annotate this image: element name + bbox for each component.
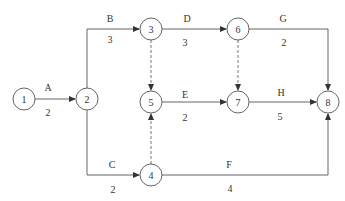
node-4: 4: [140, 164, 162, 186]
activity-B-name: B: [107, 13, 114, 24]
activity-C-name: C: [109, 159, 116, 170]
activity-H-duration: 5: [278, 111, 283, 122]
activity-E-name: E: [182, 89, 188, 100]
activity-H-name: H: [277, 87, 284, 98]
node-1: 1: [13, 88, 35, 110]
node-8: 8: [317, 91, 339, 113]
activity-D-duration: 3: [183, 37, 188, 48]
svg-text:2: 2: [85, 94, 90, 105]
activity-C-duration: 2: [111, 184, 116, 195]
node-2: 2: [76, 88, 98, 110]
activity-E-duration: 2: [183, 112, 188, 123]
node-3: 3: [140, 18, 162, 40]
activity-B: B 3: [87, 13, 139, 88]
activity-A-name: A: [44, 82, 52, 93]
activity-A: A 2: [35, 82, 75, 118]
activity-C: C 2: [87, 110, 139, 195]
activity-G: G 2: [249, 13, 328, 90]
svg-text:1: 1: [22, 94, 27, 105]
svg-text:4: 4: [149, 170, 154, 181]
node-6: 6: [227, 18, 249, 40]
svg-text:7: 7: [236, 97, 241, 108]
activity-G-duration: 2: [282, 37, 287, 48]
node-5: 5: [140, 91, 162, 113]
activity-D-name: D: [183, 13, 190, 24]
network-diagram: A 2 B 3 C 2 D 3 E 2 F 4 G 2 H 5: [0, 0, 345, 201]
svg-text:6: 6: [236, 24, 241, 35]
activity-A-duration: 2: [46, 107, 51, 118]
node-7: 7: [227, 91, 249, 113]
activity-F-duration: 4: [228, 183, 233, 194]
activity-H: H 5: [249, 87, 316, 122]
activity-D: D 3: [162, 13, 226, 48]
svg-text:8: 8: [326, 97, 331, 108]
svg-text:5: 5: [149, 97, 154, 108]
activity-G-name: G: [279, 13, 286, 24]
activity-B-duration: 3: [108, 34, 113, 45]
activity-F-name: F: [226, 159, 232, 170]
activity-E: E 2: [162, 89, 226, 123]
svg-text:3: 3: [149, 24, 154, 35]
activity-F: F 4: [162, 114, 328, 194]
